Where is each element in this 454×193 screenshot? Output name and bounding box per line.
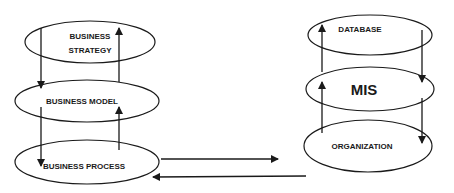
arrow-organization-to-process	[153, 176, 306, 177]
label-organization: ORGANIZATION	[331, 142, 392, 151]
label-business-strategy-line1: BUSINESS	[70, 32, 112, 41]
diagram-canvas: BUSINESS STRATEGY BUSINESS MODEL BUSINES…	[0, 0, 454, 193]
label-business-process: BUSINESS PROCESS	[43, 162, 126, 171]
node-business-strategy	[25, 21, 155, 63]
label-business-model: BUSINESS MODEL	[46, 97, 118, 106]
label-database: DATABASE	[338, 25, 382, 34]
node-database	[308, 15, 432, 55]
label-mis: MIS	[351, 81, 378, 98]
label-business-strategy-line2: STRATEGY	[69, 46, 113, 55]
